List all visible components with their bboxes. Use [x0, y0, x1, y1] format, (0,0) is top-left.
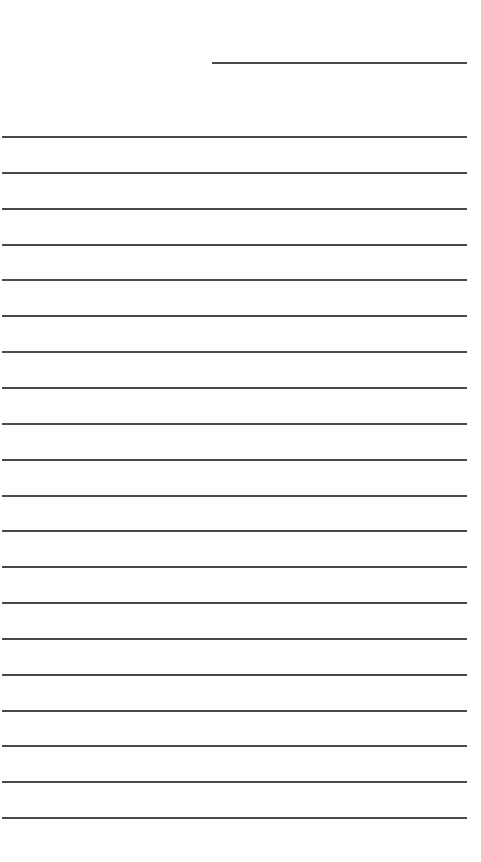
ruled-line	[2, 172, 467, 174]
ruled-line	[2, 566, 467, 568]
ruled-line	[2, 459, 467, 461]
ruled-line	[2, 530, 467, 532]
ruled-line	[2, 710, 467, 712]
ruled-line	[2, 602, 467, 604]
ruled-line	[2, 315, 467, 317]
ruled-line	[2, 745, 467, 747]
ruled-line	[2, 781, 467, 783]
ruled-line	[2, 423, 467, 425]
ruled-line	[2, 674, 467, 676]
ruled-line	[2, 351, 467, 353]
ruled-line	[2, 136, 467, 138]
ruled-line	[2, 208, 467, 210]
ruled-line	[2, 495, 467, 497]
ruled-line	[2, 279, 467, 281]
header-name-line	[212, 62, 467, 64]
ruled-line	[2, 817, 467, 819]
ruled-line	[2, 244, 467, 246]
ruled-line	[2, 387, 467, 389]
ruled-line	[2, 638, 467, 640]
